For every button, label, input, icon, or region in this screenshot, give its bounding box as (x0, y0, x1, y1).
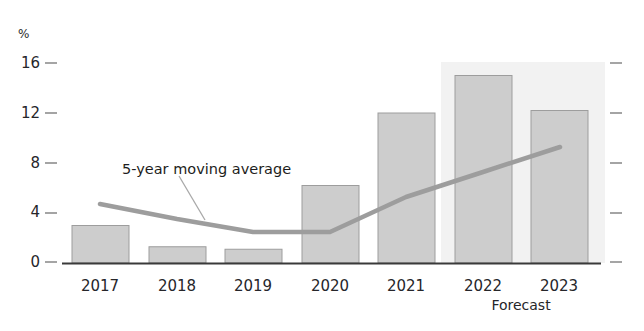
bar-2023 (531, 111, 588, 264)
y-axis-ticks-right (610, 63, 622, 262)
bar-series (72, 76, 588, 264)
bar-2019 (225, 249, 282, 263)
bar-2017 (72, 226, 129, 264)
chart-figure: % 16 12 8 4 0 2017 2018 2019 2020 2021 2… (0, 0, 644, 331)
bar-2018 (149, 247, 206, 263)
bar-2022 (455, 76, 512, 264)
chart-canvas (0, 0, 644, 331)
annotation-leader-line (179, 176, 205, 220)
y-axis-ticks-left (45, 63, 57, 262)
